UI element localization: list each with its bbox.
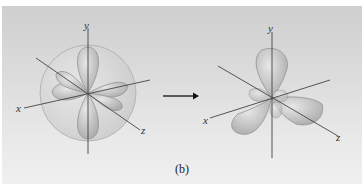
right-arrow-icon [163,93,199,100]
y-axis-label: y [83,19,89,31]
x-axis-label: x [15,102,21,114]
z-axis-label: z [335,131,341,143]
z-axis-label: z [140,124,146,136]
y-axis-label: y [267,22,273,34]
right-orbital-diagram: y x z [202,22,341,158]
left-orbital-diagram: y x z [15,19,150,154]
hybrid-lobe-left [232,98,272,134]
figure-caption: (b) [0,162,364,177]
orbital-figure: y x z y x z [0,0,364,186]
x-axis-label: x [202,114,208,126]
